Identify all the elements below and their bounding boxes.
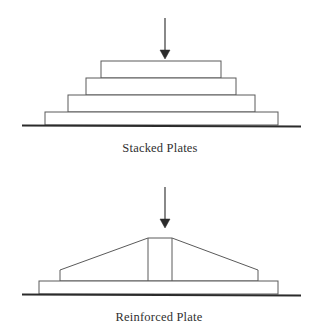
- caption-stacked-plates: Stacked Plates: [122, 141, 197, 155]
- plate-layer-1-top: [101, 61, 221, 78]
- ground-line-stacked: [22, 126, 301, 127]
- panel-stacked-plates: Stacked Plates: [22, 18, 301, 155]
- plate-layer-3: [68, 95, 255, 112]
- caption-reinforced-plate: Reinforced Plate: [116, 310, 203, 324]
- figure-root: Stacked Plates Reinforced Plate: [0, 0, 319, 331]
- reinforcement-profile: [60, 238, 258, 281]
- ground-line-reinforced: [22, 295, 301, 296]
- base-plate: [39, 281, 278, 294]
- plate-layer-2: [86, 78, 236, 95]
- plate-diagrams-canvas: Stacked Plates Reinforced Plate: [0, 0, 319, 331]
- arrow-head-icon: [160, 219, 170, 228]
- panel-reinforced-plate: Reinforced Plate: [22, 187, 301, 324]
- load-arrow-stacked: [160, 18, 170, 59]
- arrow-head-icon: [160, 50, 170, 59]
- plate-layer-4-bottom: [45, 112, 278, 125]
- load-arrow-reinforced: [160, 187, 170, 228]
